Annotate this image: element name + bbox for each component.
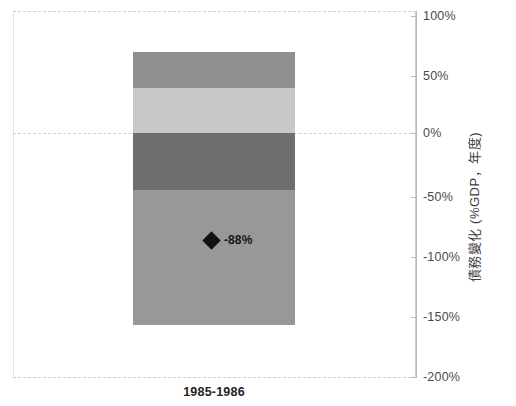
y-tick-mark--150 [411,317,417,318]
y-tick-mark-100 [411,16,417,17]
y-axis-title-text: 債務變化 (%GDP，年度) [464,97,483,317]
bar-segment-3[interactable] [133,133,295,190]
stacked-bar-1985-1986[interactable] [133,52,295,325]
y-tick-label--200: -200% [423,370,460,384]
y-tick-mark-0 [411,133,417,134]
y-tick-label--50: -50% [423,190,453,204]
y-tick-mark--50 [411,197,417,198]
y-tick-label-100: 100% [423,9,456,23]
bar-segment-1[interactable] [133,52,295,88]
y-tick-label-50: 50% [423,69,449,83]
net-change-value-label: -88% [224,233,252,247]
net-change-marker-group[interactable]: -88% [205,233,252,247]
chart-container: -88% 100% 50% 0% -50% -100% -150% -200% … [0,0,516,406]
y-tick-mark-50 [411,76,417,77]
y-tick-label--100: -100% [423,250,460,264]
bar-segment-2[interactable] [133,88,295,133]
y-tick-label-0: 0% [423,126,441,140]
y-tick-mark--100 [411,257,417,258]
diamond-marker-icon [202,231,220,249]
x-axis-category-label: 1985-1986 [133,385,295,399]
y-tick-mark--200 [411,377,417,378]
y-axis-title: 債務變化 (%GDP，年度) [464,0,483,97]
y-axis-line [416,11,417,378]
y-tick-label--150: -150% [423,310,460,324]
bar-segment-4[interactable] [133,190,295,325]
